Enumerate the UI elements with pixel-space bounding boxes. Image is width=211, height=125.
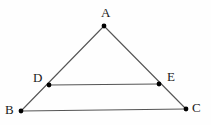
point-c (184, 107, 189, 112)
geometry-figure: A B C D E (0, 0, 211, 125)
point-label-e: E (167, 70, 175, 83)
point-a (102, 24, 107, 29)
segment-bc (21, 109, 186, 111)
segment-ab (21, 26, 104, 111)
segment-de (49, 84, 159, 85)
point-label-b: B (5, 103, 14, 116)
point-label-d: D (33, 71, 42, 84)
point-d (47, 83, 52, 88)
point-e (157, 82, 162, 87)
point-b (19, 109, 24, 114)
point-label-a: A (101, 6, 110, 19)
segment-ac (104, 26, 186, 109)
point-label-c: C (192, 101, 201, 114)
